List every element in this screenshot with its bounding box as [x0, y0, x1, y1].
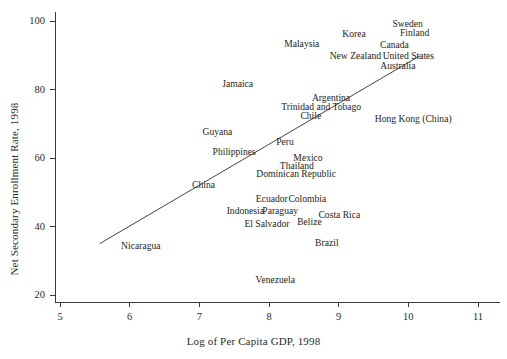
- data-point-label: Venezuela: [256, 275, 295, 285]
- data-point-label: Brazil: [315, 238, 338, 248]
- y-axis-title-text: Net Secondary Enrollment Rate, 1998: [8, 39, 20, 339]
- data-point-label: New Zealand: [330, 51, 381, 61]
- data-point-label: Malaysia: [284, 39, 319, 49]
- y-axis-title: Net Secondary Enrollment Rate, 1998: [8, 0, 24, 16]
- x-tick-label: 10: [403, 312, 414, 323]
- data-point-label: Australia: [380, 61, 415, 71]
- data-point-label: Paraguay: [262, 206, 298, 216]
- data-point-label: Chile: [300, 111, 321, 121]
- data-point-label: Canada: [380, 40, 409, 50]
- y-tick-label: 20: [0, 290, 45, 301]
- data-point-label: El Salvador: [244, 219, 289, 229]
- scatter-chart-figure: 20406080100 567891011 KoreaSwedenFinland…: [0, 0, 507, 359]
- x-tick-label: 8: [266, 312, 271, 323]
- data-point-label: Nicaragua: [121, 241, 160, 251]
- y-tick-label: 40: [0, 221, 45, 232]
- y-tick-label: 60: [0, 153, 45, 164]
- data-point-label: Costa Rica: [318, 210, 360, 220]
- x-tick-label: 6: [127, 312, 132, 323]
- data-point-label: Dominican Republic: [256, 169, 336, 179]
- x-tick-label: 11: [473, 312, 483, 323]
- data-point-label: Trinidad and Tobago: [281, 103, 361, 113]
- data-point-label: Belize: [297, 217, 322, 227]
- x-tick-label: 9: [336, 312, 341, 323]
- y-tick-label: 100: [0, 16, 45, 27]
- data-point-label: Colombia: [288, 194, 326, 204]
- data-point-label: Hong Kong (China): [375, 114, 452, 124]
- x-axis-title-text: Log of Per Capita GDP, 1998: [187, 335, 321, 347]
- data-point-label: Jamaica: [222, 79, 253, 89]
- data-point-label: Finland: [400, 28, 429, 38]
- data-point-label: Korea: [342, 29, 365, 39]
- x-axis-title: Log of Per Capita GDP, 1998: [0, 335, 507, 347]
- y-tick-label: 80: [0, 84, 45, 95]
- data-point-label: Indonesia: [227, 206, 264, 216]
- data-point-label: Ecuador: [256, 194, 288, 204]
- data-point-label: Guyana: [203, 128, 233, 138]
- x-tick-label: 7: [197, 312, 202, 323]
- data-point-label: China: [192, 180, 215, 190]
- plot-area: 20406080100 567891011 KoreaSwedenFinland…: [0, 0, 507, 359]
- x-tick-label: 5: [57, 312, 62, 323]
- data-point-label: Peru: [276, 137, 294, 147]
- data-point-label: Philippines: [213, 147, 256, 157]
